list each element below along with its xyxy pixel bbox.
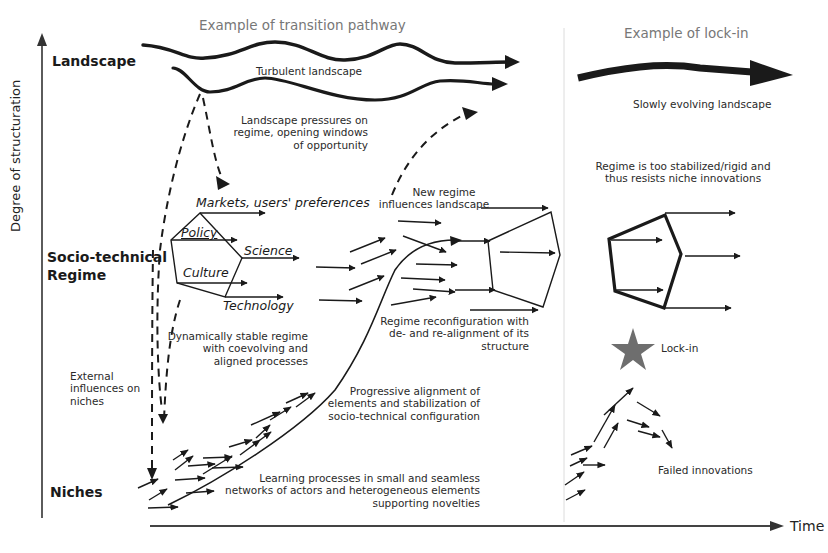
regime-element-policy: Policy <box>181 226 217 241</box>
progressive-alignment-note: Progressive alignment of elements and st… <box>318 385 480 422</box>
dashed-arrowhead <box>147 468 157 480</box>
level-regime-line2: Regime <box>47 267 106 284</box>
y-axis <box>37 33 47 518</box>
regime-reconfiguration-arrows <box>316 221 495 305</box>
lockin-panel-title: Example of lock-in <box>624 26 749 42</box>
dashed-arrowhead <box>462 107 478 120</box>
regime-element-culture: Culture <box>183 266 229 281</box>
dashed-arrowhead <box>216 176 230 190</box>
time-axis <box>150 521 784 531</box>
slowly-evolving-landscape-arrow <box>578 60 793 86</box>
rigid-regime-pentagon <box>609 213 740 308</box>
reconfiguration-note: Regime reconfiguration with de- and re-a… <box>370 315 529 352</box>
turbulent-landscape-label: Turbulent landscape <box>256 65 362 77</box>
level-niches: Niches <box>50 484 103 501</box>
external-influences-note: External influences on niches <box>70 370 140 407</box>
level-landscape: Landscape <box>52 53 136 70</box>
failed-innovations-label: Failed innovations <box>658 464 753 476</box>
lock-in-label: Lock-in <box>661 342 698 354</box>
dashed-arrowhead <box>158 414 168 424</box>
new-regime-note: New regime influences landscape <box>374 186 494 211</box>
landscape-pressures-note: Landscape pressures on regime, opening w… <box>228 114 368 151</box>
multi-level-perspective-diagram: Degree of structuration Landscape Socio-… <box>0 0 828 553</box>
level-regime-line1: Socio-technical <box>47 249 167 266</box>
learning-processes-note: Learning processes in small and seamless… <box>215 472 480 509</box>
regime-element-markets: Markets, users' preferences <box>196 196 370 211</box>
star-icon <box>611 328 655 370</box>
regime-element-science: Science <box>244 244 292 259</box>
regime-rigid-note: Regime is too stabilized/rigid and thus … <box>588 160 778 185</box>
x-axis-label: Time <box>790 518 824 535</box>
dynamically-stable-note: Dynamically stable regime with coevolvin… <box>158 330 308 367</box>
transition-panel-title: Example of transition pathway <box>199 18 406 34</box>
regime-element-technology: Technology <box>223 299 294 314</box>
y-axis-label: Degree of structuration <box>8 80 23 232</box>
slowly-evolving-label: Slowly evolving landscape <box>633 98 771 110</box>
new-regime-pentagon <box>470 208 560 310</box>
failed-innovation-arrows <box>565 388 672 500</box>
